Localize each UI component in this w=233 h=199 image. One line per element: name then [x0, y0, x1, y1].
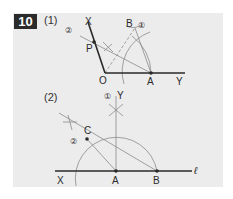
part2-point-C: [85, 137, 89, 141]
part2-label-A: A: [112, 175, 119, 186]
part2-step2-mark: ②: [70, 137, 77, 146]
part1-construction: X ② P O A Y B ①: [65, 16, 185, 87]
part1-point-P: [92, 40, 96, 44]
part1-label-P: P: [86, 43, 93, 54]
part2-label-B: B: [153, 175, 160, 186]
part1-point-A: [149, 71, 153, 75]
part2-point-B: [155, 169, 159, 173]
geometry-figure: X ② P O A Y B ① ① Y C ② X A B ℓ: [0, 0, 233, 199]
part2-label-l: ℓ: [193, 165, 198, 176]
part2-label-Y: Y: [117, 90, 124, 101]
part1-label-B: B: [126, 18, 133, 29]
part2-construction: ① Y C ② X A B ℓ: [55, 90, 198, 186]
part2-point-A: [114, 169, 118, 173]
part1-label-X: X: [85, 16, 92, 27]
part1-label-O: O: [99, 75, 107, 86]
part1-dashed-OB: [105, 28, 135, 73]
part1-step1-mark: ①: [138, 21, 145, 30]
part1-label-A: A: [147, 76, 154, 87]
part1-step2-mark: ②: [65, 26, 72, 35]
part2-step1-mark: ①: [104, 92, 111, 101]
part2-label-X: X: [57, 175, 64, 186]
part1-line-AP: [80, 36, 151, 73]
part2-label-C: C: [84, 125, 91, 136]
part1-label-Y: Y: [176, 76, 183, 87]
